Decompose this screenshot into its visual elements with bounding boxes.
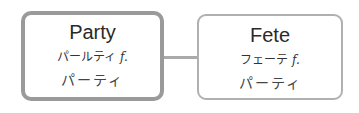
node-japanese: パーティ — [199, 74, 341, 92]
node-title: Fete — [199, 24, 341, 46]
node-party[interactable]: Party パールティ f. パーティ — [21, 11, 164, 101]
connector-line — [164, 56, 197, 59]
reading-text: パールティ — [57, 50, 116, 64]
node-reading: フェーテ f. — [199, 52, 341, 68]
node-reading: パールティ f. — [25, 49, 160, 65]
node-title: Party — [25, 21, 160, 43]
node-fete[interactable]: Fete フェーテ f. パーティ — [197, 14, 343, 100]
node-japanese: パーティ — [25, 71, 160, 89]
gender-label: f. — [120, 50, 128, 64]
gender-label: f. — [292, 53, 300, 67]
reading-text: フェーテ — [240, 53, 288, 67]
